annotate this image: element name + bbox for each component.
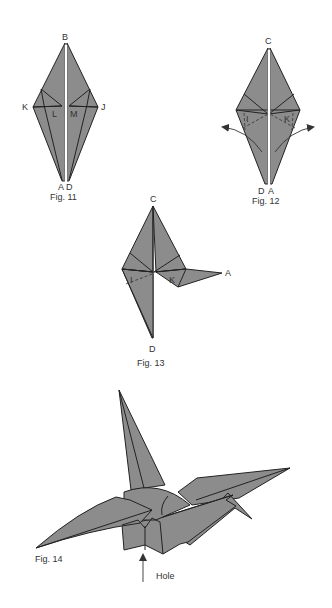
fig12-label-inner-left: I — [246, 114, 249, 124]
fig13-caption: Fig. 13 — [137, 358, 165, 368]
fig13-label-bottom: D — [149, 344, 156, 354]
fig13-label-inner-right: K — [169, 275, 175, 285]
fig12-caption: Fig. 12 — [252, 196, 280, 206]
fig13-shape — [122, 206, 222, 338]
fig11-label-inner-right: M — [70, 109, 78, 119]
figure-12: C I K D A Fig. 12 — [223, 36, 313, 206]
fig12-label-bottom-right: A — [268, 186, 274, 196]
fig13-label-right-point: A — [225, 268, 231, 278]
fig11-label-right: J — [101, 102, 106, 112]
fig11-kite-shape — [33, 43, 98, 182]
figure-13: C I K A D Fig. 13 — [122, 194, 231, 368]
fig14-hole-label: Hole — [156, 571, 175, 581]
fig14-crane — [36, 390, 290, 554]
fig14-caption: Fig. 14 — [35, 554, 63, 564]
fig11-label-inner-left: L — [52, 109, 57, 119]
fig11-label-bottom-left: A — [58, 182, 64, 192]
fig12-label-bottom-left: D — [258, 186, 265, 196]
fig13-label-top: C — [150, 194, 157, 204]
fig12-label-top: C — [265, 36, 272, 46]
fig11-label-left: K — [22, 102, 28, 112]
fig12-label-inner-right: K — [284, 114, 290, 124]
fig13-label-inner-left: I — [130, 275, 133, 285]
figure-11: B K J L M A D Fig. 11 — [22, 32, 106, 202]
fig11-label-top: B — [62, 32, 68, 42]
figure-14: Hole Fig. 14 — [35, 390, 290, 582]
fig11-caption: Fig. 11 — [50, 192, 77, 202]
fig11-label-bottom-right: D — [66, 182, 73, 192]
origami-diagram-page: B K J L M A D Fig. 11 C I K D A Fig. 12 — [0, 0, 332, 608]
